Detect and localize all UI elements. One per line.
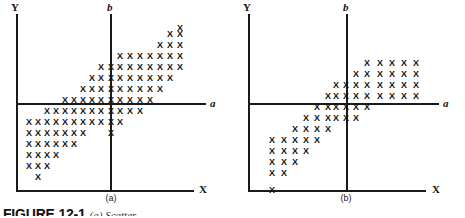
- scatter-point: X: [292, 147, 298, 156]
- scatter-point: X: [157, 63, 163, 72]
- scatter-point: X: [71, 96, 77, 105]
- scatter-point: X: [314, 125, 320, 134]
- scatter-point: X: [389, 81, 395, 90]
- scatter-point: X: [137, 63, 143, 72]
- scatter-point: X: [44, 118, 50, 127]
- scatter-point: X: [108, 107, 114, 116]
- scatter-point: X: [98, 63, 104, 72]
- scatter-point: X: [343, 92, 349, 101]
- scatter-point: X: [26, 118, 32, 127]
- scatter-point: X: [71, 107, 77, 116]
- scatter-point: X: [26, 151, 32, 160]
- scatter-point: X: [269, 186, 275, 195]
- scatter-point: X: [333, 103, 339, 112]
- scatter-point: X: [35, 118, 41, 127]
- scatter-point: X: [117, 74, 123, 83]
- scatter-point: X: [117, 85, 123, 94]
- scatter-point: X: [44, 140, 50, 149]
- scatter-point: X: [281, 136, 287, 145]
- scatter-point: X: [377, 59, 383, 68]
- scatter-marks-b: XXXXXXXXXXXXXXXXXXXXXXXXXXXXXXXXXXXXXXXX…: [232, 0, 465, 205]
- scatter-point: X: [108, 63, 114, 72]
- scatter-point: X: [26, 129, 32, 138]
- scatter-point: X: [377, 70, 383, 79]
- scatter-point: X: [413, 81, 419, 90]
- scatter-point: X: [44, 162, 50, 171]
- scatter-point: X: [127, 96, 133, 105]
- scatter-point: X: [377, 92, 383, 101]
- scatter-point: X: [401, 92, 407, 101]
- scatter-point: X: [108, 74, 114, 83]
- scatter-point: X: [117, 52, 123, 61]
- panel-sub-caption-b: (b): [341, 193, 352, 203]
- scatterplot-panel-a: Y b a X XXXXXXXXXXXXXXXXXXXXXXXXXXXXXXXX…: [0, 0, 232, 205]
- scatter-point: X: [364, 70, 370, 79]
- page-bottom-edge: [0, 216, 465, 218]
- scatter-point: X: [413, 70, 419, 79]
- scatter-point: X: [62, 129, 68, 138]
- panel-sub-caption-a: (a): [106, 193, 117, 203]
- scatter-point: X: [80, 96, 86, 105]
- scatter-point: X: [343, 103, 349, 112]
- scatter-point: X: [62, 107, 68, 116]
- scatter-point: X: [53, 140, 59, 149]
- scatter-point: X: [353, 70, 359, 79]
- scatter-point: X: [413, 92, 419, 101]
- scatter-point: X: [269, 136, 275, 145]
- scatter-point: X: [157, 52, 163, 61]
- scatter-point: X: [108, 85, 114, 94]
- scatter-point: X: [401, 59, 407, 68]
- scatter-point: X: [177, 41, 183, 50]
- scatter-point: X: [98, 85, 104, 94]
- scatter-point: X: [147, 96, 153, 105]
- scatter-point: X: [281, 158, 287, 167]
- scatter-point: X: [89, 96, 95, 105]
- scatter-point: X: [53, 107, 59, 116]
- scatter-point: X: [127, 85, 133, 94]
- scatter-point: X: [127, 107, 133, 116]
- scatter-point: X: [147, 74, 153, 83]
- scatter-point: X: [89, 74, 95, 83]
- scatter-point: X: [303, 136, 309, 145]
- scatter-point: X: [62, 96, 68, 105]
- scatter-marks-a: XXXXXXXXXXXXXXXXXXXXXXXXXXXXXXXXXXXXXXXX…: [0, 0, 232, 205]
- scatter-point: X: [364, 81, 370, 90]
- scatter-point: X: [281, 169, 287, 178]
- scatter-point: X: [303, 125, 309, 134]
- scatter-point: X: [26, 162, 32, 171]
- scatter-point: X: [35, 173, 41, 182]
- scatter-point: X: [269, 147, 275, 156]
- scatter-point: X: [343, 81, 349, 90]
- scatter-point: X: [292, 136, 298, 145]
- scatter-point: X: [117, 107, 123, 116]
- scatter-point: X: [364, 92, 370, 101]
- scatter-point: X: [89, 85, 95, 94]
- scatter-point: X: [401, 81, 407, 90]
- scatter-point: X: [71, 129, 77, 138]
- scatter-point: X: [281, 147, 287, 156]
- scatter-point: X: [98, 96, 104, 105]
- scatter-point: X: [157, 74, 163, 83]
- scatter-point: X: [26, 140, 32, 149]
- scatter-point: X: [44, 151, 50, 160]
- scatter-point: X: [80, 129, 86, 138]
- scatter-point: X: [137, 52, 143, 61]
- scatter-point: X: [325, 103, 331, 112]
- scatter-point: X: [80, 85, 86, 94]
- scatter-point: X: [89, 107, 95, 116]
- scatter-point: X: [80, 118, 86, 127]
- scatter-point: X: [127, 63, 133, 72]
- scatter-point: X: [157, 85, 163, 94]
- scatter-point: X: [89, 118, 95, 127]
- scatter-point: X: [35, 151, 41, 160]
- scatter-point: X: [98, 74, 104, 83]
- scatter-point: X: [157, 41, 163, 50]
- scatter-point: X: [325, 125, 331, 134]
- scatter-point: X: [353, 103, 359, 112]
- scatter-point: X: [353, 114, 359, 123]
- scatter-point: X: [167, 52, 173, 61]
- scatter-point: X: [177, 63, 183, 72]
- scatter-point: X: [343, 114, 349, 123]
- scatter-point: X: [35, 129, 41, 138]
- scatter-point: X: [53, 129, 59, 138]
